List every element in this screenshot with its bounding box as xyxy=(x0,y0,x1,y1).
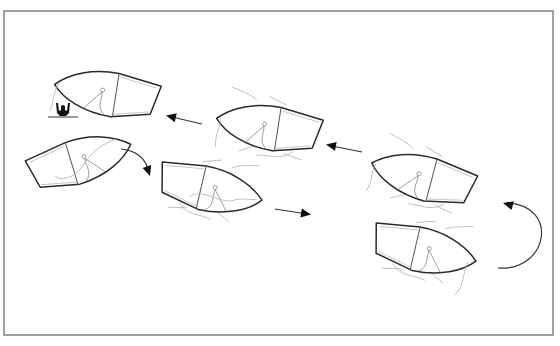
maneuver-diagram xyxy=(0,0,560,346)
diagram-canvas xyxy=(0,0,560,346)
